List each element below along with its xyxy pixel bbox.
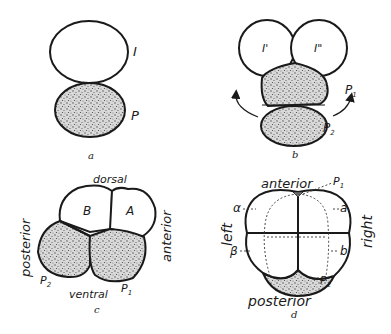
label-P2: P2 (323, 121, 335, 137)
label-posterior: posterior (247, 293, 312, 309)
label-P: P (131, 108, 139, 123)
panel-c: dorsal B A posterior anterior P2 ventral… (18, 173, 174, 315)
label-P2: P2 (40, 274, 52, 289)
label-dorsal: dorsal (93, 173, 127, 186)
cell-P (55, 83, 125, 137)
caption-a: a (88, 150, 94, 161)
label-ventral: ventral (69, 288, 108, 301)
label-P1: P1 (333, 175, 344, 190)
panel-d: anterior P1 α a β b left right P2 poster… (219, 175, 375, 320)
label-posterior: posterior (18, 217, 33, 278)
label-I-prime: I' (262, 42, 268, 55)
label-I-double-prime: I" (314, 42, 322, 55)
label-left: left (219, 223, 235, 246)
label-B: B (83, 204, 91, 218)
label-anterior: anterior (261, 176, 314, 191)
cell-I (50, 21, 128, 83)
label-alpha: α (233, 201, 241, 215)
label-a: a (340, 201, 347, 215)
rotation-arrow-left-icon (236, 94, 258, 117)
cell-P2 (261, 106, 327, 146)
caption-c: c (94, 304, 100, 315)
label-I: I (133, 44, 137, 59)
cell-alpha (246, 190, 298, 233)
label-b: b (340, 244, 348, 258)
label-P1: P1 (345, 83, 357, 99)
label-P1: P1 (121, 282, 132, 297)
label-A: A (125, 204, 134, 218)
panel-a: I P a (50, 21, 139, 161)
rotation-arrow-right-icon (333, 97, 351, 116)
cell-beta (246, 233, 298, 278)
caption-d: d (291, 309, 297, 320)
label-right: right (359, 215, 375, 248)
panel-b: I' I" P1 P2 b (236, 20, 357, 160)
label-anterior: anterior (159, 209, 174, 262)
embryo-cleavage-figure: I P a I' I" P1 P2 b dorsal B A posterior… (0, 0, 391, 334)
caption-b: b (292, 149, 298, 160)
cell-P1 (90, 229, 146, 281)
